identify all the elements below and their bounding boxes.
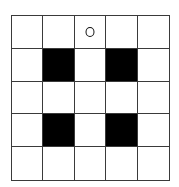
grid-cell-r1-c3 bbox=[106, 49, 137, 82]
grid-cell-r1-c4 bbox=[138, 49, 169, 82]
grid-cell-r3-c2 bbox=[75, 114, 106, 147]
grid-cell-r0-c0 bbox=[12, 16, 43, 49]
grid-cell-r0-c2 bbox=[75, 16, 106, 49]
grid-cell-r2-c4 bbox=[138, 82, 169, 115]
grid-cell-r3-c4 bbox=[138, 114, 169, 147]
grid-cell-r0-c3 bbox=[106, 16, 137, 49]
grid-cell-r2-c2 bbox=[75, 82, 106, 115]
grid-cell-r0-c1 bbox=[43, 16, 74, 49]
grid-cell-r3-c3 bbox=[106, 114, 137, 147]
grid-cell-r1-c0 bbox=[12, 49, 43, 82]
grid-cell-r3-c0 bbox=[12, 114, 43, 147]
grid-cell-r1-c2 bbox=[75, 49, 106, 82]
grid-cell-r4-c3 bbox=[106, 147, 137, 180]
grid-cell-r2-c3 bbox=[106, 82, 137, 115]
circle-icon bbox=[85, 27, 94, 37]
grid-cell-r2-c0 bbox=[12, 82, 43, 115]
grid-board bbox=[11, 15, 170, 181]
grid-cell-r4-c4 bbox=[138, 147, 169, 180]
grid-cell-r0-c4 bbox=[138, 16, 169, 49]
grid-cell-r3-c1 bbox=[43, 114, 74, 147]
grid-cell-r4-c1 bbox=[43, 147, 74, 180]
grid-cell-r1-c1 bbox=[43, 49, 74, 82]
grid-cell-r4-c0 bbox=[12, 147, 43, 180]
grid-cell-r2-c1 bbox=[43, 82, 74, 115]
grid-cell-r4-c2 bbox=[75, 147, 106, 180]
